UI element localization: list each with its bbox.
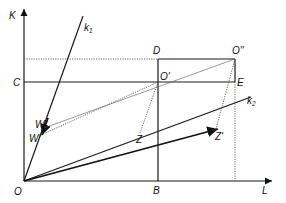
dotted-line-o-double-prime-to-z-prime xyxy=(216,59,235,129)
label-w: W xyxy=(35,119,46,130)
line-w-to-o-double-prime xyxy=(44,59,235,128)
line-w-prime-to-o-prime xyxy=(41,82,158,135)
label-z: Z xyxy=(135,134,143,145)
label-d: D xyxy=(153,45,160,56)
diagram-canvas: K L O C D O'' O' E B W W' Z Z' k1 k2 xyxy=(0,0,286,203)
label-origin: O xyxy=(14,186,22,197)
label-b: B xyxy=(153,185,160,196)
dotted-line-o-prime-to-z xyxy=(140,82,158,133)
label-o-double-prime: O'' xyxy=(232,45,245,56)
label-z-prime: Z' xyxy=(214,131,224,142)
label-w-prime: W' xyxy=(29,133,41,144)
vector-o-to-z-prime xyxy=(24,129,218,181)
label-k2: k2 xyxy=(247,95,256,107)
label-c: C xyxy=(13,77,21,88)
ray-k1 xyxy=(24,16,83,181)
k-axis-label: K xyxy=(9,10,17,21)
label-k1: k1 xyxy=(84,22,93,34)
label-o-prime: O' xyxy=(160,71,171,82)
label-e: E xyxy=(237,77,244,88)
l-axis-label: L xyxy=(262,185,268,196)
